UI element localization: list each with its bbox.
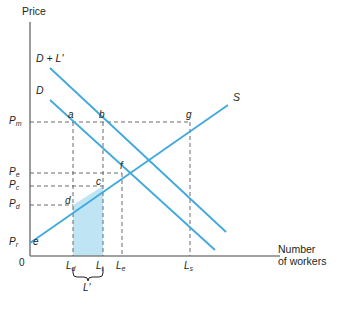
point-label-e: e (33, 237, 39, 247)
x-tick-lt: Lt (96, 261, 104, 272)
point-label-a: a (68, 110, 74, 120)
x-tick-le: Le (116, 261, 125, 272)
curve-label-d-plus-l: D + L' (36, 53, 63, 64)
origin-label: 0 (19, 258, 25, 268)
shaded-surplus-region (73, 186, 103, 256)
point-label-f: f (120, 161, 123, 171)
y-axis-title: Price (22, 6, 46, 17)
point-label-d: d (65, 196, 71, 206)
y-tick-pd: Pd (9, 199, 20, 210)
x-tick-ld: Ld (66, 261, 75, 272)
y-tick-pm: Pm (9, 116, 22, 127)
point-label-b: b (99, 110, 105, 120)
supply-curve (30, 105, 228, 243)
point-label-c: c (96, 177, 101, 187)
y-tick-pr: Pr (9, 237, 18, 248)
curve-label-s: S (233, 92, 240, 103)
y-tick-pc: Pc (9, 180, 19, 191)
x-tick-ls: Ls (184, 261, 193, 272)
curve-label-d: D (36, 85, 44, 96)
x-axis-title-line1: Number (278, 244, 315, 255)
brace-label-l-prime: L' (83, 283, 90, 293)
x-axis-title-line2: of workers (278, 256, 326, 267)
y-tick-pe: Pe (9, 167, 20, 178)
point-label-g: g (186, 110, 192, 120)
